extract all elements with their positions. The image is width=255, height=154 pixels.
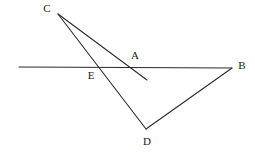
- horizontal-transversal-line: [19, 67, 232, 68]
- point-label-b: B: [238, 59, 245, 71]
- segment-d-to-b: [146, 68, 232, 129]
- point-labels-group: C A B E D: [43, 2, 245, 147]
- segment-c-through-a: [58, 14, 147, 80]
- point-label-c: C: [43, 2, 50, 14]
- geometry-canvas: C A B E D: [0, 0, 255, 154]
- point-label-a: A: [131, 49, 139, 61]
- segment-c-through-e-to-d: [58, 14, 146, 129]
- point-label-d: D: [143, 135, 151, 147]
- segments-group: [19, 14, 232, 129]
- geometry-figure: C A B E D: [0, 0, 255, 154]
- point-label-e: E: [88, 69, 95, 81]
